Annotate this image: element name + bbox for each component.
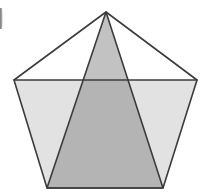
geometry-figure: Regular pentagon with inscribed shaded t… [0,0,214,194]
left-edge-scan-artifact [0,8,3,29]
